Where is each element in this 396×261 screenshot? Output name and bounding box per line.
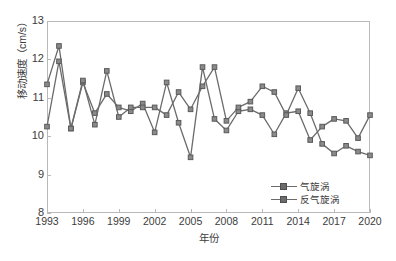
data-point-marker: [105, 69, 110, 74]
data-point-marker: [152, 130, 157, 135]
x-tick-mark: [370, 209, 371, 213]
data-point-marker: [368, 113, 373, 118]
data-point-marker: [188, 107, 193, 112]
data-point-marker: [248, 107, 253, 112]
x-tick-mark: [334, 209, 335, 213]
y-tick-mark: [47, 98, 51, 99]
data-point-marker: [152, 105, 157, 110]
data-point-marker: [308, 138, 313, 143]
data-point-marker: [248, 99, 253, 104]
x-tick-mark: [83, 209, 84, 213]
data-point-marker: [296, 109, 301, 114]
data-point-marker: [164, 113, 169, 118]
data-point-marker: [356, 136, 361, 141]
legend-marker-icon: [271, 181, 297, 192]
data-point-marker: [272, 132, 277, 137]
data-point-marker: [176, 90, 181, 95]
data-point-marker: [284, 113, 289, 118]
data-point-marker: [260, 113, 265, 118]
y-tick-mark: [47, 59, 51, 60]
data-point-marker: [200, 84, 205, 89]
data-point-marker: [105, 92, 110, 97]
data-point-marker: [320, 124, 325, 129]
data-point-marker: [93, 122, 98, 127]
x-tick-mark: [298, 209, 299, 213]
data-point-marker: [188, 155, 193, 160]
data-point-marker: [45, 82, 50, 87]
data-point-marker: [236, 105, 241, 110]
data-point-marker: [308, 111, 313, 116]
x-tick-label: 2020: [348, 216, 392, 227]
data-point-marker: [176, 120, 181, 125]
series-layer: [45, 44, 373, 160]
legend-label: 气旋涡: [300, 181, 330, 193]
data-point-marker: [368, 153, 373, 158]
y-tick-mark: [47, 21, 51, 22]
data-point-marker: [212, 65, 217, 70]
data-point-marker: [344, 144, 349, 149]
x-tick-mark: [155, 209, 156, 213]
series-line: [47, 46, 370, 155]
data-point-marker: [128, 105, 133, 110]
chart-figure: 8910111213 19931996199920022005200820112…: [0, 0, 396, 261]
data-point-marker: [69, 126, 74, 131]
legend-item-cyclonic[interactable]: 气旋涡: [271, 180, 357, 193]
data-point-marker: [296, 86, 301, 91]
chart-legend: 气旋涡 反气旋涡: [268, 178, 360, 209]
y-tick-label: 10: [4, 130, 44, 141]
data-point-marker: [272, 90, 277, 95]
data-point-marker: [45, 124, 50, 129]
data-point-marker: [200, 65, 205, 70]
data-point-marker: [320, 142, 325, 147]
data-point-marker: [81, 78, 86, 83]
legend-marker-icon: [271, 194, 297, 205]
y-tick-mark: [47, 175, 51, 176]
data-point-marker: [57, 44, 62, 49]
series-anticyclonic: [45, 44, 373, 158]
data-point-marker: [224, 119, 229, 124]
data-point-marker: [164, 80, 169, 85]
data-point-marker: [116, 115, 121, 120]
x-tick-mark: [47, 209, 48, 213]
x-tick-mark: [191, 209, 192, 213]
data-point-marker: [332, 117, 337, 122]
data-point-marker: [224, 128, 229, 133]
data-point-marker: [356, 149, 361, 154]
x-tick-mark: [119, 209, 120, 213]
y-axis-label: 移动速度（cm/s）: [16, 0, 28, 128]
x-tick-mark: [226, 209, 227, 213]
data-point-marker: [332, 151, 337, 156]
data-point-marker: [344, 119, 349, 124]
data-point-marker: [140, 105, 145, 110]
y-tick-mark: [47, 136, 51, 137]
data-point-marker: [212, 117, 217, 122]
data-point-marker: [260, 84, 265, 89]
legend-item-anticyclonic[interactable]: 反气旋涡: [271, 193, 357, 206]
y-tick-mark: [47, 213, 51, 214]
x-axis-label: 年份: [47, 232, 370, 244]
y-tick-label: 9: [4, 169, 44, 180]
x-tick-mark: [262, 209, 263, 213]
legend-label: 反气旋涡: [300, 194, 340, 206]
